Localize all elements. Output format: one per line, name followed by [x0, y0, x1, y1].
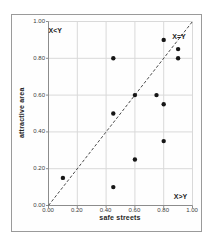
chart-figure: 0.000.200.400.600.801.00 0.000.200.400.6… [11, 14, 202, 232]
x-axis-title: safe streets [48, 214, 192, 221]
y-axis-title: attractive area [16, 21, 27, 205]
screenshot-root: 0.000.200.400.600.801.00 0.000.200.400.6… [0, 0, 214, 243]
region-annotation: X<Y [48, 27, 61, 34]
region-annotation: X>Y [174, 192, 187, 199]
plot-area: X<YX=YX>Y [48, 21, 192, 205]
plot-annotations: X<YX=YX>Y [48, 21, 192, 205]
region-annotation: X=Y [172, 32, 185, 39]
